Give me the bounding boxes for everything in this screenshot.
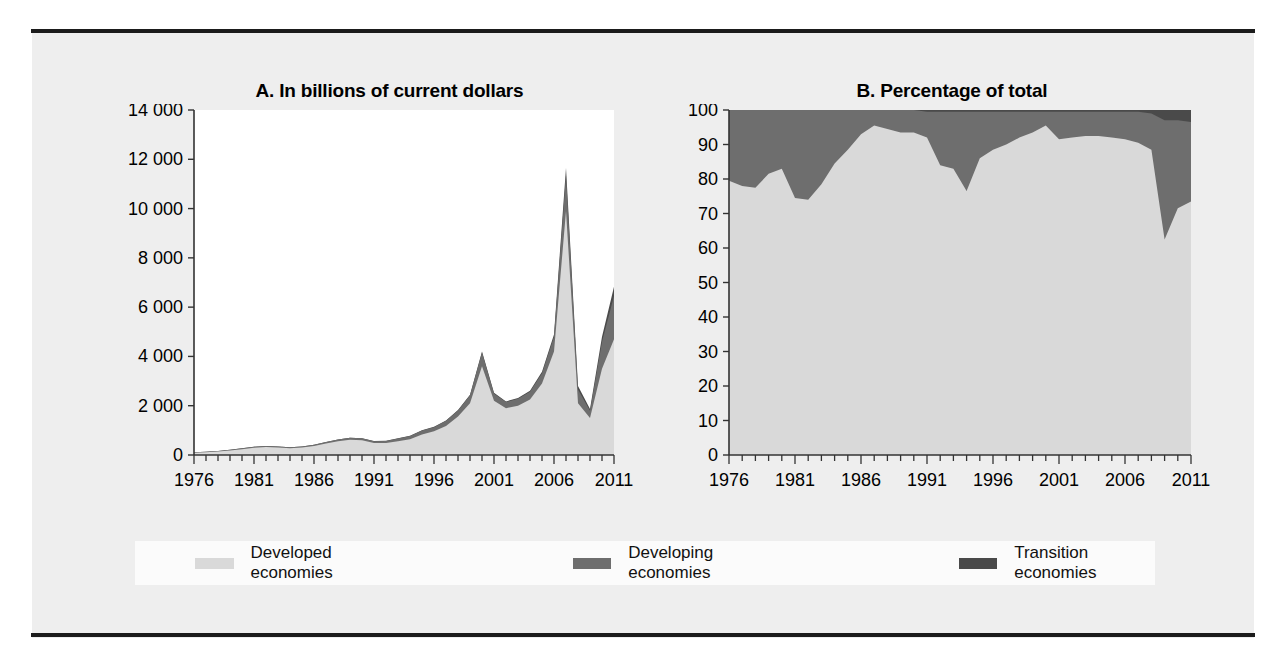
y-tick-label: 0	[173, 445, 183, 465]
y-tick-label: 40	[698, 307, 718, 327]
chart-a-plot: 02 0004 0006 0008 00010 00012 00014 0001…	[72, 104, 652, 524]
y-tick-label: 20	[698, 376, 718, 396]
chart-panel-b: B. Percentage of total 01020304050607080…	[657, 34, 1217, 534]
y-tick-label: 60	[698, 238, 718, 258]
bottom-rule	[31, 633, 1255, 637]
legend-label-developed: Developed economies	[251, 543, 398, 583]
x-tick-label: 2001	[1039, 470, 1079, 490]
y-tick-label: 90	[698, 135, 718, 155]
charts-area: A. In billions of current dollars 02 000…	[32, 34, 1254, 534]
top-rule	[31, 29, 1255, 33]
x-tick-label: 2001	[474, 470, 514, 490]
y-tick-label: 10 000	[128, 199, 183, 219]
x-tick-label: 2011	[1172, 470, 1211, 490]
legend-swatch-transition	[959, 558, 997, 569]
y-tick-label: 4 000	[138, 346, 183, 366]
x-tick-label: 1981	[775, 470, 815, 490]
chart-a-title: A. In billions of current dollars	[72, 80, 652, 102]
legend-item-developed: Developed economies	[195, 543, 398, 583]
y-tick-label: 0	[708, 445, 718, 465]
x-tick-label: 1996	[414, 470, 454, 490]
y-tick-label: 80	[698, 169, 718, 189]
y-tick-label: 12 000	[128, 149, 183, 169]
y-tick-label: 70	[698, 204, 718, 224]
y-tick-label: 100	[688, 104, 718, 120]
x-tick-label: 1991	[354, 470, 394, 490]
y-tick-label: 6 000	[138, 297, 183, 317]
y-tick-label: 50	[698, 273, 718, 293]
legend-item-developing: Developing economies	[573, 543, 779, 583]
figure-container: A. In billions of current dollars 02 000…	[0, 0, 1285, 668]
legend-label-transition: Transition economies	[1014, 543, 1155, 583]
x-tick-label: 1981	[234, 470, 274, 490]
x-tick-label: 2011	[595, 470, 634, 490]
y-tick-label: 10	[698, 411, 718, 431]
x-tick-label: 2006	[534, 470, 574, 490]
x-tick-label: 1991	[907, 470, 947, 490]
x-tick-label: 1976	[709, 470, 749, 490]
legend-item-transition: Transition economies	[959, 543, 1155, 583]
chart-legend: Developed economies Developing economies…	[135, 541, 1155, 585]
y-tick-label: 2 000	[138, 396, 183, 416]
legend-swatch-developing	[573, 558, 612, 569]
y-tick-label: 30	[698, 342, 718, 362]
x-tick-label: 2006	[1105, 470, 1145, 490]
chart-b-plot: 0102030405060708090100197619811986199119…	[657, 104, 1217, 524]
legend-swatch-developed	[195, 558, 234, 569]
x-tick-label: 1986	[294, 470, 334, 490]
y-tick-label: 14 000	[128, 104, 183, 120]
legend-label-developing: Developing economies	[628, 543, 779, 583]
x-tick-label: 1986	[841, 470, 881, 490]
x-tick-label: 1996	[973, 470, 1013, 490]
chart-panel-a: A. In billions of current dollars 02 000…	[72, 34, 652, 534]
chart-b-title: B. Percentage of total	[657, 80, 1217, 102]
y-tick-label: 8 000	[138, 248, 183, 268]
x-tick-label: 1976	[174, 470, 214, 490]
